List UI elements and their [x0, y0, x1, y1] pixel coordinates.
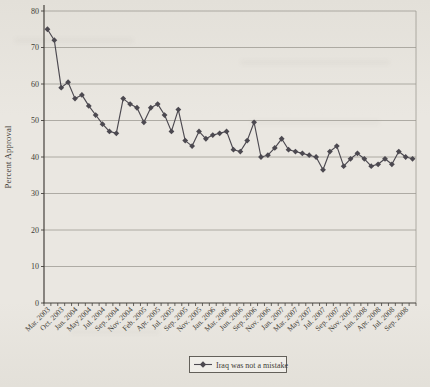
y-tick-label: 20	[31, 226, 39, 235]
y-axis-title: Percent Approval	[3, 125, 13, 189]
data-point-marker	[293, 149, 299, 155]
data-point-marker	[175, 107, 181, 113]
data-point-marker	[231, 147, 237, 153]
data-point-marker	[148, 105, 154, 111]
data-point-marker	[169, 129, 175, 135]
y-tick-label: 30	[31, 189, 39, 198]
data-point-marker	[299, 150, 305, 156]
data-point-marker	[286, 147, 292, 153]
data-point-marker	[258, 154, 264, 160]
legend: Iraq was not a mistake	[190, 357, 289, 373]
y-tick-label: 70	[31, 43, 39, 52]
data-point-marker	[162, 112, 168, 118]
data-point-marker	[320, 167, 326, 173]
data-point-marker	[313, 154, 319, 160]
data-point-marker	[244, 138, 250, 144]
iraq-approval-line-chart: 01020304050607080Mar. 2003Oct. 2003Jan. …	[0, 0, 430, 387]
data-point-marker	[155, 101, 161, 107]
data-point-marker	[45, 26, 51, 32]
data-point-marker	[237, 149, 243, 155]
data-point-marker	[217, 130, 223, 136]
data-point-marker	[134, 105, 140, 111]
data-point-marker	[224, 129, 230, 135]
data-point-marker	[113, 130, 119, 136]
series-line	[47, 29, 412, 170]
y-tick-label: 50	[31, 116, 39, 125]
y-tick-label: 40	[31, 153, 39, 162]
y-tick-label: 80	[31, 7, 39, 16]
scanned-book-page: 01020304050607080Mar. 2003Oct. 2003Jan. …	[0, 0, 430, 387]
data-point-marker	[210, 132, 216, 138]
y-tick-label: 0	[35, 299, 39, 308]
data-point-marker	[72, 96, 78, 102]
y-tick-label: 60	[31, 80, 39, 89]
y-tick-label: 10	[31, 262, 39, 271]
data-point-marker	[79, 92, 85, 98]
data-point-marker	[51, 37, 57, 43]
legend-label: Iraq was not a mistake	[216, 361, 288, 370]
